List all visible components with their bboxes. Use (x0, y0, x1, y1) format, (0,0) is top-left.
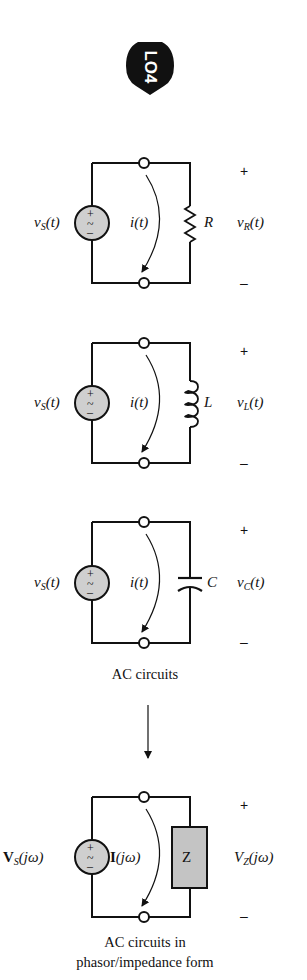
minus-sign: – (240, 908, 248, 924)
ac-circuits-caption: AC circuits (0, 667, 290, 682)
element-label: L (204, 395, 212, 410)
source-phasor-label: VS(jω) (3, 850, 44, 867)
minus-sign: – (240, 455, 248, 471)
element-voltage-label: vC(t) (237, 575, 265, 592)
circuit-diagrams (0, 0, 307, 980)
source-minus: – (87, 226, 93, 238)
element-label: C (207, 575, 217, 590)
current-phasor-label: I(jω) (110, 850, 141, 865)
source-voltage-label: vS(t) (34, 215, 60, 232)
source-minus: – (87, 586, 93, 598)
plus-sign: + (240, 522, 248, 538)
element-voltage-label: vL(t) (237, 395, 263, 412)
element-label: R (204, 215, 213, 230)
phasor-caption-line2: phasor/impedance form (0, 955, 290, 970)
source-voltage-label: vS(t) (34, 575, 60, 592)
current-label: i(t) (130, 395, 148, 410)
element-phasor-voltage-label: VZ(jω) (234, 850, 273, 867)
plus-sign: + (240, 163, 248, 179)
current-label: i(t) (130, 215, 148, 230)
current-label: i(t) (130, 575, 148, 590)
minus-sign: – (240, 275, 248, 291)
source-minus: – (87, 406, 93, 418)
impedance-label: Z (182, 850, 191, 865)
phasor-caption-line1: AC circuits in (0, 935, 290, 950)
plus-sign: + (240, 343, 248, 359)
minus-sign: – (240, 634, 248, 650)
source-voltage-label: vS(t) (34, 395, 60, 412)
source-minus: – (87, 860, 93, 872)
plus-sign: + (240, 797, 248, 813)
element-voltage-label: vR(t) (237, 215, 264, 232)
